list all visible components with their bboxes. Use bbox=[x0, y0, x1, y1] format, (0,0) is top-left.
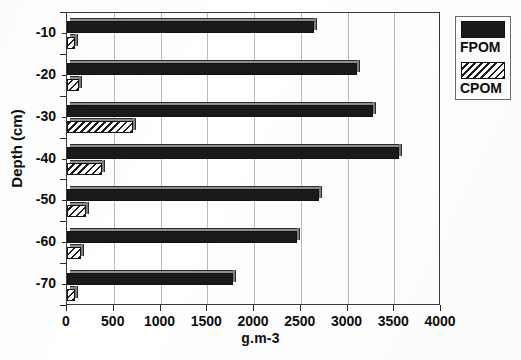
bar-front-face bbox=[67, 37, 75, 49]
y-minor-tick-mark bbox=[62, 200, 66, 201]
bar-group bbox=[67, 97, 439, 139]
bar-side-face bbox=[86, 202, 89, 214]
bar-cpom--30 bbox=[67, 118, 136, 133]
legend-swatch-cpom bbox=[461, 62, 505, 79]
bar-side-face bbox=[357, 60, 360, 72]
bar-group bbox=[67, 180, 439, 222]
bar-front-face bbox=[67, 289, 75, 301]
bar-side-face bbox=[314, 18, 317, 30]
y-tick-label: -70 bbox=[4, 275, 56, 291]
x-tick-mark bbox=[206, 305, 207, 311]
legend-entry-fpom: FPOM bbox=[461, 21, 507, 59]
bar-front-face bbox=[67, 121, 133, 133]
bar-front-face bbox=[67, 147, 399, 159]
bar-side-face bbox=[81, 244, 84, 256]
legend-label-cpom: CPOM bbox=[460, 80, 502, 96]
y-minor-tick-mark bbox=[62, 117, 66, 118]
bar-side-face bbox=[399, 144, 402, 156]
chart-legend: FPOMCPOM bbox=[455, 16, 511, 100]
bar-cpom--50 bbox=[67, 202, 89, 217]
legend-entry-cpom: CPOM bbox=[461, 62, 507, 100]
bar-front-face bbox=[67, 21, 314, 33]
bar-front-face bbox=[67, 231, 297, 243]
bar-side-face bbox=[75, 286, 78, 298]
y-tick-mark bbox=[60, 221, 66, 222]
x-tick-label: 4000 bbox=[410, 313, 470, 329]
bar-group bbox=[67, 55, 439, 97]
bar-side-face bbox=[297, 228, 300, 240]
x-tick-mark bbox=[113, 305, 114, 311]
bar-series-container bbox=[67, 13, 439, 304]
y-tick-mark bbox=[60, 54, 66, 55]
bar-chart-figure: Depth (cm) 05001000150020002500300035004… bbox=[0, 0, 521, 360]
x-tick-mark bbox=[347, 305, 348, 311]
y-tick-label: -60 bbox=[4, 233, 56, 249]
bar-cpom--70 bbox=[67, 286, 78, 301]
bar-side-face bbox=[75, 34, 78, 46]
bar-side-face bbox=[373, 102, 376, 114]
y-tick-mark bbox=[60, 179, 66, 180]
bar-front-face bbox=[67, 105, 373, 117]
bar-front-face bbox=[67, 63, 357, 75]
bar-side-face bbox=[133, 118, 136, 130]
x-tick-mark bbox=[393, 305, 394, 311]
y-minor-tick-mark bbox=[62, 75, 66, 76]
x-tick-mark bbox=[300, 305, 301, 311]
bar-fpom--50 bbox=[67, 186, 322, 201]
y-tick-label: -30 bbox=[4, 108, 56, 124]
x-tick-mark bbox=[253, 305, 254, 311]
bar-fpom--20 bbox=[67, 60, 360, 75]
bar-fpom--70 bbox=[67, 270, 236, 285]
bar-group bbox=[67, 139, 439, 181]
x-tick-mark bbox=[160, 305, 161, 311]
bar-front-face bbox=[67, 79, 79, 91]
y-tick-mark bbox=[60, 263, 66, 264]
bar-group bbox=[67, 13, 439, 55]
bar-group bbox=[67, 264, 439, 306]
bar-side-face bbox=[79, 76, 82, 88]
y-tick-mark bbox=[60, 305, 66, 306]
plot-area bbox=[66, 12, 440, 305]
legend-swatch-fpom bbox=[461, 21, 505, 38]
y-minor-tick-mark bbox=[62, 284, 66, 285]
bar-group bbox=[67, 222, 439, 264]
x-tick-mark bbox=[440, 305, 441, 311]
y-minor-tick-mark bbox=[62, 159, 66, 160]
bar-front-face bbox=[67, 189, 319, 201]
bar-cpom--60 bbox=[67, 244, 84, 259]
y-minor-tick-mark bbox=[62, 242, 66, 243]
bar-side-face bbox=[102, 160, 105, 172]
bar-front-face bbox=[67, 247, 81, 259]
x-axis-title: g.m-3 bbox=[0, 330, 521, 346]
y-tick-mark bbox=[60, 12, 66, 13]
y-tick-label: -10 bbox=[4, 24, 56, 40]
y-minor-tick-mark bbox=[62, 33, 66, 34]
bar-front-face bbox=[67, 205, 86, 217]
bar-cpom--20 bbox=[67, 76, 82, 91]
y-tick-label: -20 bbox=[4, 66, 56, 82]
y-tick-mark bbox=[60, 138, 66, 139]
y-tick-label: -40 bbox=[4, 150, 56, 166]
bar-front-face bbox=[67, 163, 102, 175]
y-tick-mark bbox=[60, 96, 66, 97]
x-tick-mark bbox=[66, 305, 67, 311]
bar-side-face bbox=[233, 270, 236, 282]
bar-front-face bbox=[67, 273, 233, 285]
bar-cpom--10 bbox=[67, 34, 78, 49]
bar-fpom--40 bbox=[67, 144, 402, 159]
bar-cpom--40 bbox=[67, 160, 105, 175]
bar-fpom--60 bbox=[67, 228, 300, 243]
legend-label-fpom: FPOM bbox=[460, 39, 500, 55]
bar-side-face bbox=[319, 186, 322, 198]
bar-fpom--10 bbox=[67, 18, 317, 33]
bar-fpom--30 bbox=[67, 102, 376, 117]
y-tick-label: -50 bbox=[4, 191, 56, 207]
